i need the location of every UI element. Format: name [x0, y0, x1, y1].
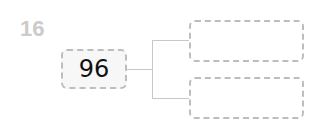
- problem-number: 16: [20, 16, 44, 42]
- answer-box-bottom[interactable]: [189, 77, 304, 119]
- connector-vertical: [152, 40, 153, 98]
- answer-box-top[interactable]: [189, 20, 304, 62]
- connector-horizontal-bottom: [152, 98, 190, 99]
- root-number: 96: [79, 55, 110, 83]
- connector-horizontal-root: [127, 69, 152, 70]
- connector-horizontal-top: [152, 40, 190, 41]
- root-number-box: 96: [61, 49, 127, 89]
